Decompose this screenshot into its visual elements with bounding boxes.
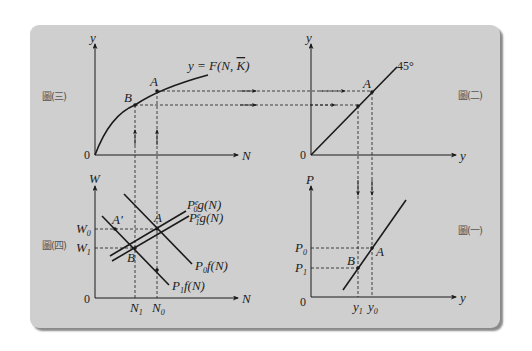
figure-label-3: 圖(三) (42, 88, 66, 103)
origin-label: 0 (84, 148, 90, 162)
45-degree-label: 45° (397, 59, 414, 73)
figure-label-2: 圖(二) (458, 87, 482, 102)
origin-label: 0 (84, 292, 90, 306)
figure-label-1: 圖(一) (458, 222, 482, 237)
y0-label: y0 (366, 299, 378, 316)
point-a: A (149, 74, 158, 89)
point-a: A (362, 76, 371, 91)
point-a-prime: A' (111, 212, 123, 227)
aggregate-supply-panel: P y 0 P0 P1 y1 y0 A B (294, 172, 466, 316)
origin-label: 0 (300, 148, 306, 162)
p1-label: P1 (294, 260, 307, 277)
w1-label: W1 (76, 240, 91, 257)
n0-label: N0 (151, 300, 165, 317)
y-axis-label-horizontal: y (458, 148, 466, 163)
p1e-g-label: Pe1g(N) (188, 210, 223, 227)
p-axis-label: P (305, 172, 314, 187)
45-degree-line (311, 67, 397, 155)
w0-label: W0 (76, 221, 91, 238)
w-axis-label: W (89, 171, 101, 186)
p0f-label: P0f(N) (194, 258, 228, 275)
p1f-label: P1f(N) (171, 278, 205, 295)
point-b: B (347, 253, 355, 268)
n-axis-label: N (241, 291, 252, 306)
p0-label: P0 (294, 240, 307, 257)
y-axis-label: y (304, 30, 312, 45)
as-curve (343, 200, 406, 290)
n-axis-label: N (241, 148, 252, 163)
point-b: B (127, 250, 135, 265)
origin-label: 0 (300, 295, 306, 309)
figure-label-4: 圖(四) (42, 237, 66, 252)
n1-label: N1 (129, 300, 143, 317)
curve-label: y = F(N, K) (186, 58, 250, 73)
y-axis-label: y (88, 30, 96, 45)
y-axis-label-horizontal: y (458, 290, 466, 305)
point-a: A (375, 244, 384, 259)
point-a: A (153, 210, 162, 225)
point-b: B (124, 90, 132, 105)
y1-label: y1 (351, 299, 363, 316)
macro-four-quadrant-diagram: y N 0 y = F(N, K) B A y y 0 45° A (0, 0, 532, 351)
labor-market-panel: W N 0 W0 W1 N1 N0 A' A B Pe0g(N) Pe1g(N)… (76, 171, 252, 317)
